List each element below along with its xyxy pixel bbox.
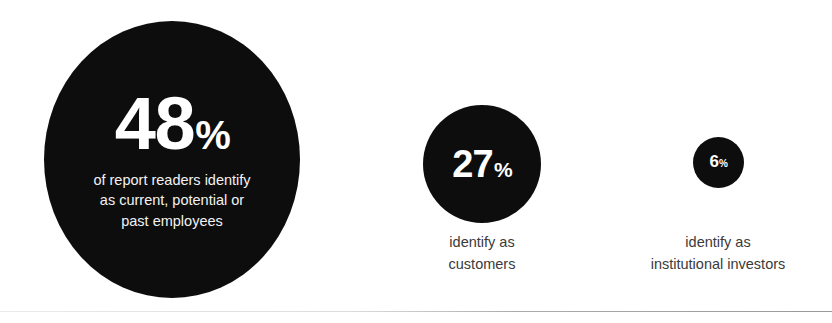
stat-caption-primary: of report readers identify as current, p… (71, 170, 272, 232)
percent-symbol-secondary: % (494, 160, 512, 180)
stat-caption-tertiary: identify as institutional investors (604, 231, 832, 275)
stat-value-secondary: 27% (452, 146, 512, 182)
stat-bubble-primary: 48% of report readers identify as curren… (44, 21, 300, 298)
caption-line-2: institutional investors (651, 256, 786, 272)
infographic-canvas: 48% of report readers identify as curren… (0, 0, 832, 323)
caption-line-3: past employees (121, 213, 223, 229)
caption-line-1: of report readers identify (93, 172, 250, 188)
percent-symbol-tertiary: % (719, 159, 728, 169)
percent-symbol-primary: % (195, 116, 229, 154)
caption-line-2: customers (449, 256, 516, 272)
stat-number-tertiary: 6 (709, 154, 718, 170)
bottom-divider (0, 311, 832, 312)
stat-bubble-secondary: 27% (423, 105, 541, 223)
stat-value-tertiary: 6% (709, 154, 727, 170)
stat-value-primary: 48% (115, 89, 229, 159)
stat-caption-secondary: identify as customers (412, 231, 552, 275)
stat-number-primary: 48 (115, 89, 194, 159)
stat-bubble-tertiary: 6% (693, 137, 744, 188)
caption-line-1: identify as (449, 234, 514, 250)
caption-line-2: as current, potential or (100, 192, 244, 208)
caption-line-1: identify as (685, 234, 750, 250)
stat-number-secondary: 27 (452, 146, 493, 182)
